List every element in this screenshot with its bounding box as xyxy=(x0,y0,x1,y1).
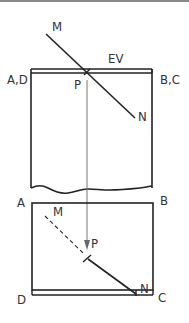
plan-view: A B M P D N C xyxy=(17,193,168,307)
label-b: B xyxy=(160,193,168,208)
line-pn-visible xyxy=(88,259,136,294)
label-m-elevation: M xyxy=(52,19,62,34)
label-d: D xyxy=(17,292,26,307)
label-m-plan: M xyxy=(53,204,63,219)
label-ad: A,D xyxy=(7,72,28,87)
line-mp-hidden xyxy=(45,216,83,253)
projector-arrowhead-icon xyxy=(84,240,90,250)
label-ev: EV xyxy=(108,51,123,66)
projector xyxy=(84,80,90,250)
break-line xyxy=(31,186,152,193)
label-n-plan: N xyxy=(140,281,149,296)
label-a: A xyxy=(17,195,25,210)
elevation-view: M EV A,D B,C P N xyxy=(7,19,180,193)
label-p-plan: P xyxy=(91,236,98,251)
projection-diagram: M EV A,D B,C P N A B M P D N C xyxy=(0,0,189,323)
label-n-elevation: N xyxy=(138,109,147,124)
label-p-elevation: P xyxy=(74,77,81,92)
label-bc: B,C xyxy=(160,72,180,87)
label-c: C xyxy=(158,290,166,305)
line-mn-elevation xyxy=(46,34,135,118)
